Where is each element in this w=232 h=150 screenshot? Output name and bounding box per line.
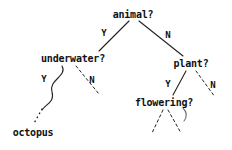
node-underwater[interactable]: underwater? [41, 53, 105, 64]
edge-label-animal-yes: Y [101, 28, 106, 38]
node-octopus-leaf[interactable]: octopus [13, 127, 54, 138]
flowering-hook-stroke [183, 108, 186, 121]
edge-plant-to-flowering [173, 71, 186, 95]
edge-label-plant-no: N [210, 80, 215, 90]
edge-flowering-left-dashed [152, 110, 163, 133]
edge-flowering-right-dashed [168, 110, 181, 133]
edge-underwater-to-octopus-curve [42, 66, 63, 110]
edge-label-underwater-yes: Y [41, 74, 46, 84]
edge-label-underwater-no: N [89, 75, 94, 85]
node-animal[interactable]: animal? [113, 9, 154, 20]
edge-label-animal-no: N [165, 30, 170, 40]
edge-label-plant-yes: Y [165, 79, 170, 89]
decision-tree-diagram: animal? underwater? plant? flowering? oc… [0, 0, 232, 150]
edge-underwater-no-dashed [76, 66, 99, 94]
edge-animal-to-plant [139, 21, 183, 56]
node-plant[interactable]: plant? [174, 58, 209, 69]
node-flowering[interactable]: flowering? [135, 97, 193, 108]
edge-curve-to-octopus [33, 109, 42, 125]
